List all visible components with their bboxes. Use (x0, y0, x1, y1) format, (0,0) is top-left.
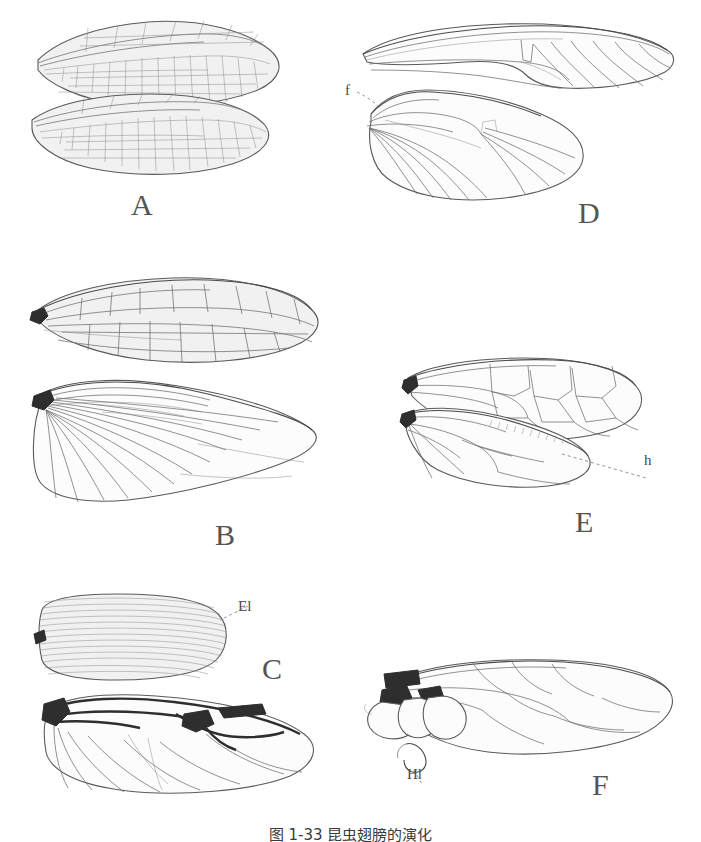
panel-b-drawing (22, 272, 332, 522)
panel-b (22, 272, 332, 522)
forewing-b (30, 278, 318, 363)
panel-label-d: D (578, 196, 600, 230)
part-label-f: f (345, 82, 350, 99)
panel-label-f: F (592, 768, 609, 802)
figure-caption: 图 1-33 昆虫翅膀的演化 (0, 828, 701, 842)
alula-lobes-f (364, 696, 466, 739)
panel-e-drawing (402, 352, 662, 502)
panel-label-c: C (262, 652, 283, 686)
panel-c-drawing (28, 592, 328, 812)
hindwing-b (32, 380, 316, 502)
hindwing-a (32, 94, 269, 174)
leader-line-el (196, 598, 256, 628)
forewing-d (363, 24, 674, 89)
panel-d (355, 10, 690, 210)
forewing-a (38, 21, 279, 106)
hindwing-c (42, 695, 313, 793)
part-label-hl: Hl (407, 766, 422, 783)
panel-label-a: A (131, 188, 153, 222)
panel-label-e: E (575, 505, 594, 539)
panel-d-drawing (355, 10, 690, 210)
panel-e (402, 352, 662, 502)
panel-a (18, 8, 318, 193)
panel-label-b: B (215, 518, 236, 552)
hindwing-d (367, 90, 583, 200)
panel-a-drawing (18, 8, 318, 193)
panel-c (28, 592, 328, 812)
figure-insect-wing-evolution: A (0, 0, 701, 842)
part-label-h: h (644, 452, 652, 469)
